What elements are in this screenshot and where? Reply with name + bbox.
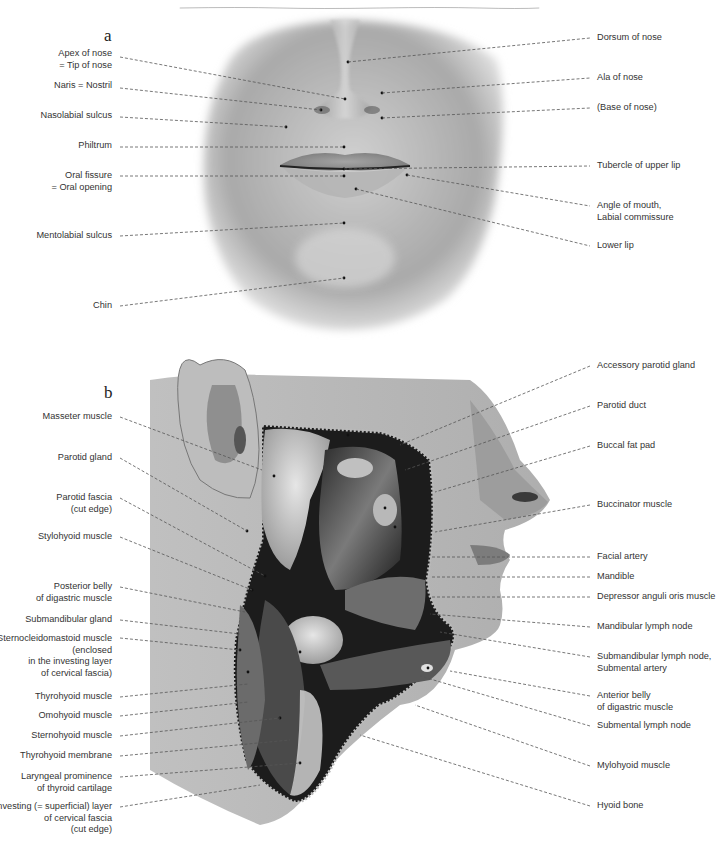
label-investing-layer: Investing (= superficial) layer of cervi… (0, 801, 112, 836)
label-depressor-anguli-oris: Depressor anguli oris muscle (597, 591, 715, 603)
label-lower-lip: Lower lip (597, 240, 634, 252)
label-facial-artery: Facial artery (597, 551, 648, 563)
label-submandibular-gland: Submandibular gland (25, 614, 112, 626)
label-thyrohyoid-membrane: Thyrohyoid membrane (20, 750, 112, 762)
label-anterior-belly-digastric: Anterior belly of digastric muscle (597, 690, 673, 713)
panel-letter-a: a (104, 26, 112, 46)
label-base-of-nose: (Base of nose) (597, 102, 657, 114)
label-parotid-gland: Parotid gland (58, 452, 112, 464)
label-accessory-parotid-gland: Accessory parotid gland (597, 360, 695, 372)
label-sternohyoid-muscle: Sternohyoid muscle (31, 730, 112, 742)
label-ala-of-nose: Ala of nose (597, 72, 643, 84)
label-mandible: Mandible (597, 571, 634, 583)
label-stylohyoid-muscle: Stylohyoid muscle (38, 531, 112, 543)
label-sternocleidomastoid: Sternocleidomastoid muscle (enclosed in … (0, 633, 112, 679)
label-mylohyoid-muscle: Mylohyoid muscle (597, 760, 670, 772)
label-parotid-duct: Parotid duct (597, 400, 646, 412)
label-posterior-belly-digastric: Posterior belly of digastric muscle (36, 581, 112, 604)
label-oral-fissure: Oral fissure = Oral opening (51, 170, 112, 193)
label-omohyoid-muscle: Omohyoid muscle (38, 710, 112, 722)
label-mandibular-lymph-node: Mandibular lymph node (597, 621, 693, 633)
label-submandibular-lymph-node: Submandibular lymph node, Submental arte… (597, 651, 711, 674)
panel-letter-b: b (104, 383, 113, 403)
label-masseter-muscle: Masseter muscle (43, 411, 112, 423)
label-tubercle-of-upper-lip: Tubercle of upper lip (597, 160, 680, 172)
label-apex-of-nose: Apex of nose = Tip of nose (58, 48, 112, 71)
label-thyrohyoid-muscle: Thyrohyoid muscle (35, 691, 112, 703)
label-hyoid-bone: Hyoid bone (597, 800, 643, 812)
label-parotid-fascia: Parotid fascia (cut edge) (56, 492, 112, 515)
neck-lateral-dissection (150, 360, 550, 825)
label-submental-lymph-node: Submental lymph node (597, 720, 691, 732)
label-naris: Naris = Nostril (54, 80, 112, 92)
face-frontal-view (204, 20, 503, 330)
label-dorsum-of-nose: Dorsum of nose (597, 32, 662, 44)
label-philtrum: Philtrum (78, 140, 112, 152)
label-buccinator-muscle: Buccinator muscle (597, 499, 672, 511)
label-nasolabial-sulcus: Nasolabial sulcus (41, 110, 113, 122)
label-chin: Chin (93, 300, 112, 312)
label-laryngeal-prominence: Laryngeal prominence of thyroid cartilag… (21, 771, 112, 794)
label-buccal-fat-pad: Buccal fat pad (597, 440, 655, 452)
label-mentolabial-sulcus: Mentolabial sulcus (36, 230, 112, 242)
label-angle-of-mouth: Angle of mouth, Labial commissure (597, 200, 674, 223)
